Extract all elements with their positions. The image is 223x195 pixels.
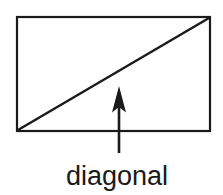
diagram-canvas: diagonal [0,0,223,195]
rectangle-diagonal-diagram: diagonal [0,0,223,195]
up-arrow-icon [112,86,126,153]
diagonal-line [18,18,209,130]
diagonal-label: diagonal [66,161,168,191]
